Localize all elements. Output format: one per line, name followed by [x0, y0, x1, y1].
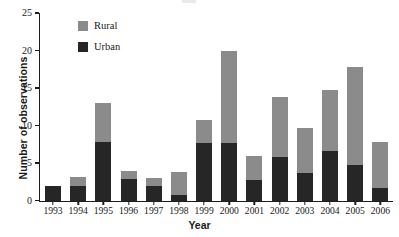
bar-group[interactable]: 2004	[317, 13, 342, 201]
x-axis-tick-label: 1993	[43, 205, 62, 217]
bar-stack[interactable]	[322, 90, 338, 201]
bar-segment-rural[interactable]	[196, 120, 212, 143]
bar-segment-urban[interactable]	[272, 157, 288, 201]
bar-segment-rural[interactable]	[146, 178, 162, 186]
bar-stack[interactable]	[347, 67, 363, 201]
bar-segment-rural[interactable]	[297, 128, 313, 173]
bar-segment-urban[interactable]	[347, 165, 363, 201]
x-axis-tick-label: 1995	[94, 205, 113, 217]
bar-segment-rural[interactable]	[372, 142, 388, 188]
y-axis-tick-mark	[35, 87, 39, 88]
bar-segment-rural[interactable]	[171, 172, 187, 195]
bar-stack[interactable]	[45, 186, 61, 201]
bar-segment-rural[interactable]	[70, 177, 86, 186]
legend-label: Urban	[94, 41, 120, 52]
x-axis-tick-label: 1999	[194, 205, 213, 217]
y-axis-tick-mark	[35, 162, 39, 163]
y-axis-tick-mark	[35, 12, 39, 13]
bar-segment-rural[interactable]	[272, 97, 288, 157]
bar-group[interactable]: 1999	[192, 13, 217, 201]
legend-item-rural[interactable]: Rural	[78, 17, 120, 34]
x-axis-tick-label: 2001	[245, 205, 264, 217]
bar-stack[interactable]	[146, 178, 162, 201]
x-axis-tick-label: 2002	[270, 205, 289, 217]
y-axis-tick-mark	[35, 200, 39, 201]
y-axis-tick-label: 25	[22, 6, 32, 20]
x-axis-tick-label: 2000	[220, 205, 239, 217]
bar-segment-urban[interactable]	[322, 151, 338, 201]
bar-group[interactable]: 1998	[166, 13, 191, 201]
bar-stack[interactable]	[272, 97, 288, 201]
bar-stack[interactable]	[95, 103, 111, 201]
bar-stack[interactable]	[121, 171, 137, 201]
legend-swatch-icon	[78, 42, 88, 52]
bar-segment-urban[interactable]	[121, 179, 137, 201]
bar-stack[interactable]	[246, 156, 262, 201]
x-axis-tick-label: 2004	[320, 205, 339, 217]
x-axis-tick-label: 2003	[295, 205, 314, 217]
bar-segment-urban[interactable]	[45, 186, 61, 201]
x-axis-title: Year	[0, 219, 399, 231]
bar-segment-urban[interactable]	[146, 186, 162, 200]
x-axis-tick-label: 1998	[169, 205, 188, 217]
bar-group[interactable]: 2001	[242, 13, 267, 201]
bar-segment-urban[interactable]	[221, 143, 237, 201]
x-axis-tick-label: 1996	[119, 205, 138, 217]
y-axis-tick-label: 10	[22, 119, 32, 133]
bar-stack[interactable]	[196, 120, 212, 201]
bar-segment-rural[interactable]	[121, 171, 137, 179]
x-axis-tick-label: 2006	[371, 205, 390, 217]
bar-segment-urban[interactable]	[70, 186, 86, 200]
bar-group[interactable]: 2002	[267, 13, 292, 201]
bar-group[interactable]: 1993	[40, 13, 65, 201]
bar-chart: Number of observations 0510152025 199319…	[0, 0, 399, 237]
bar-segment-rural[interactable]	[95, 103, 111, 142]
bar-stack[interactable]	[221, 51, 237, 200]
legend-swatch-icon	[78, 21, 88, 31]
page-crop-remnant	[182, 0, 196, 3]
legend-item-urban[interactable]: Urban	[78, 38, 120, 55]
bar-stack[interactable]	[297, 128, 313, 201]
bar-segment-urban[interactable]	[95, 142, 111, 201]
x-axis-tick-label: 2005	[346, 205, 365, 217]
y-axis-tick-mark	[35, 50, 39, 51]
y-axis-tick-label: 5	[27, 156, 32, 170]
bar-group[interactable]: 2005	[343, 13, 368, 201]
bar-segment-urban[interactable]	[246, 180, 262, 201]
bar-segment-urban[interactable]	[196, 143, 212, 201]
bar-segment-rural[interactable]	[221, 51, 237, 143]
bar-segment-rural[interactable]	[246, 156, 262, 180]
x-axis-tick-label: 1997	[144, 205, 163, 217]
legend-label: Rural	[94, 20, 117, 31]
y-axis-tick-mark	[35, 125, 39, 126]
bar-segment-urban[interactable]	[297, 173, 313, 201]
y-axis-tick-label: 20	[22, 44, 32, 58]
bar-group[interactable]: 2003	[292, 13, 317, 201]
bar-segment-rural[interactable]	[322, 90, 338, 152]
x-axis-tick-label: 1994	[69, 205, 88, 217]
bar-segment-urban[interactable]	[372, 188, 388, 201]
bar-group[interactable]: 2000	[217, 13, 242, 201]
bar-group[interactable]: 1997	[141, 13, 166, 201]
y-axis-tick-label: 15	[22, 81, 32, 95]
bar-group[interactable]: 2006	[368, 13, 393, 201]
bar-stack[interactable]	[171, 172, 187, 201]
bar-stack[interactable]	[372, 142, 388, 201]
x-axis-line	[39, 201, 393, 202]
chart-legend: RuralUrban	[78, 17, 120, 59]
y-axis-tick-label: 0	[27, 194, 32, 208]
bar-segment-rural[interactable]	[347, 67, 363, 165]
bar-stack[interactable]	[70, 177, 86, 200]
